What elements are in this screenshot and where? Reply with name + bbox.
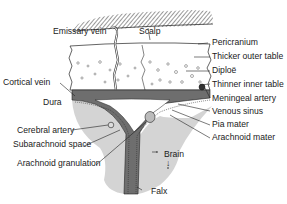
arachnoid-granulation [145,112,155,123]
label-arachnoid-mater: Arachnoid mater [212,132,275,142]
meninges-diagram: Emissary vein Scalp Pericranium Thicker … [0,0,287,204]
label-cortical-vein: Cortical vein [3,77,51,87]
label-pia-mater: Pia mater [212,119,249,129]
skull-bone [69,43,211,90]
label-falx: Falx [151,186,168,196]
label-emissary-vein: Emissary vein [53,26,107,36]
label-dura: Dura [43,97,62,107]
label-diploe: Diploë [212,65,237,75]
label-thinner-inner-table: Thinner inner table [212,79,284,89]
label-venous-sinus: Venous sinus [212,106,263,116]
label-scalp: Scalp [139,26,161,36]
cerebral-artery [108,122,114,128]
label-meningeal-artery: Meningeal artery [212,93,277,103]
label-subarachnoid-space: Subarachnoid space [13,139,92,149]
label-thicker-outer-table: Thicker outer table [212,51,283,61]
brain-arrow-icon: ↓ [166,158,170,168]
label-cerebral-artery: Cerebral artery [17,125,75,135]
label-pericranium: Pericranium [212,37,258,47]
label-arachnoid-granulation: Arachnoid granulation [17,158,101,168]
